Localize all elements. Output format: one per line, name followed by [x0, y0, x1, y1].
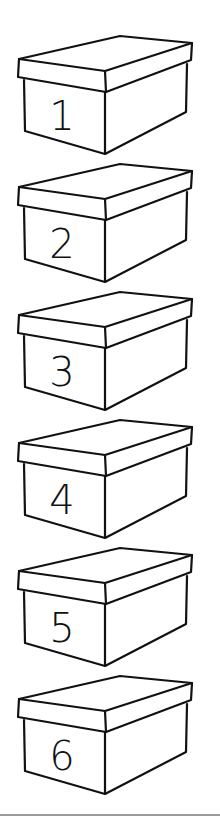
box-outline-icon: [0, 546, 220, 674]
box-outline-icon: [0, 34, 220, 162]
box-number: 6: [44, 736, 80, 776]
box-outline-icon: [0, 162, 220, 290]
box-outline-icon: [0, 290, 220, 418]
box-number: 4: [44, 480, 80, 520]
box-1: 1: [0, 34, 220, 162]
box-number: 3: [44, 352, 80, 392]
box-outline-icon: [0, 418, 220, 546]
box-number: 1: [44, 96, 80, 136]
box-2: 2: [0, 162, 220, 290]
box-5: 5: [0, 546, 220, 674]
box-3: 3: [0, 290, 220, 418]
box-outline-icon: [0, 674, 220, 802]
box-number: 2: [44, 224, 80, 264]
box-number: 5: [44, 608, 80, 648]
bottom-divider: [0, 814, 220, 816]
box-4: 4: [0, 418, 220, 546]
box-6: 6: [0, 674, 220, 802]
